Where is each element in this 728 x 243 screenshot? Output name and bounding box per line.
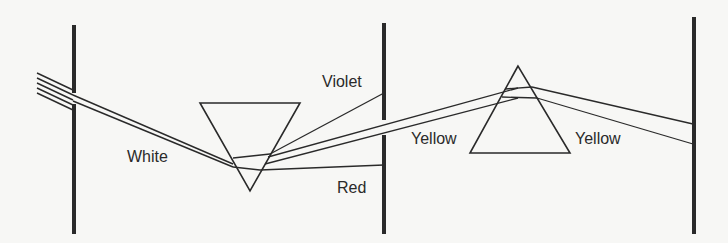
optics-diagram: White Violet Red Yellow Yellow	[0, 0, 728, 243]
diagram-canvas	[0, 0, 728, 243]
violet-ray	[270, 93, 384, 154]
label-yellow-left: Yellow	[411, 131, 457, 147]
label-violet: Violet	[322, 74, 362, 90]
red-ray	[260, 165, 384, 170]
label-white: White	[127, 149, 168, 165]
incoming-light-rays	[37, 73, 73, 110]
prism-1	[200, 103, 300, 191]
prism-2	[470, 66, 570, 153]
label-yellow-right: Yellow	[575, 131, 621, 147]
label-red: Red	[337, 180, 366, 196]
prism-1-internal-rays	[233, 154, 270, 170]
